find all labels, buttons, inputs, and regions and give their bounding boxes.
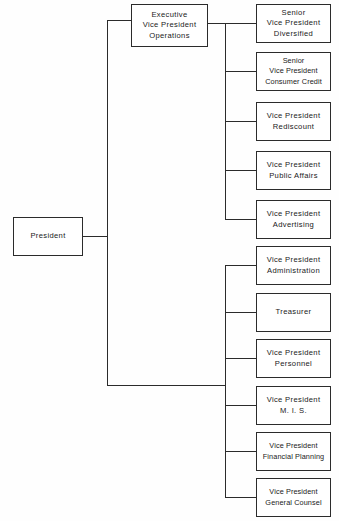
node-svp-diversified-line-3: Diversified xyxy=(274,29,313,39)
node-vp-mis-line-1: Vice President xyxy=(267,395,321,405)
node-vp-administration[interactable]: Vice President Administration xyxy=(256,246,331,285)
node-vp-personnel-line-2: Personnel xyxy=(275,359,312,369)
node-evp-operations-line-1: Executive xyxy=(151,10,187,20)
connector-trunk-to-executive xyxy=(107,20,132,21)
connector-staff-bus xyxy=(225,265,226,498)
connector-executive-stub xyxy=(207,23,226,24)
node-vp-administration-line-2: Administration xyxy=(267,266,320,276)
node-vp-public-affairs-line-1: Vice President xyxy=(267,160,321,170)
node-svp-diversified-line-1: Senior xyxy=(281,8,305,18)
node-vp-public-affairs[interactable]: Vice President Public Affairs xyxy=(256,151,331,190)
node-vp-advertising[interactable]: Vice President Advertising xyxy=(256,200,331,239)
connector-branch-vp-administration xyxy=(225,265,257,266)
node-svp-consumer-credit-line-2: Vice President xyxy=(269,66,317,76)
node-vp-advertising-line-2: Advertising xyxy=(273,220,314,230)
node-vp-public-affairs-line-2: Public Affairs xyxy=(269,171,318,181)
node-vp-mis-line-2: M. I. S. xyxy=(280,406,307,416)
connector-president-stub xyxy=(82,236,108,237)
node-svp-diversified[interactable]: Senior Vice President Diversified xyxy=(256,4,331,43)
node-vp-administration-line-1: Vice President xyxy=(267,255,321,265)
connector-branch-vp-general-counsel xyxy=(225,497,257,498)
node-vp-financial-planning-line-2: Financial Planning xyxy=(263,452,324,462)
node-treasurer-line-1: Treasurer xyxy=(276,307,312,317)
connector-branch-vp-advertising xyxy=(225,219,257,220)
connector-branch-vp-mis xyxy=(225,405,257,406)
connector-branch-vp-financial-planning xyxy=(225,451,257,452)
node-vp-advertising-line-1: Vice President xyxy=(267,209,321,219)
node-president[interactable]: President xyxy=(13,217,83,256)
node-treasurer[interactable]: Treasurer xyxy=(256,293,331,332)
node-evp-operations-line-3: Operations xyxy=(149,31,190,41)
connector-branch-vp-public-affairs xyxy=(225,170,257,171)
node-vp-rediscount[interactable]: Vice President Rediscount xyxy=(256,102,331,141)
org-chart-canvas: President Executive Vice President Opera… xyxy=(0,0,339,521)
connector-branch-svp-consumer-credit xyxy=(225,71,257,72)
node-vp-general-counsel-line-2: General Counsel xyxy=(265,498,321,508)
node-vp-financial-planning-line-1: Vice President xyxy=(269,441,317,451)
node-vp-mis[interactable]: Vice President M. I. S. xyxy=(256,386,331,425)
connector-branch-svp-diversified xyxy=(225,23,257,24)
node-svp-consumer-credit[interactable]: Senior Vice President Consumer Credit xyxy=(256,52,331,91)
node-evp-operations-line-2: Vice President xyxy=(143,20,197,30)
node-vp-general-counsel-line-1: Vice President xyxy=(269,487,317,497)
connector-branch-treasurer xyxy=(225,312,257,313)
connector-branch-vp-personnel xyxy=(225,358,257,359)
connector-main-trunk xyxy=(107,20,108,386)
node-vp-rediscount-line-1: Vice President xyxy=(267,111,321,121)
node-vp-financial-planning[interactable]: Vice President Financial Planning xyxy=(256,432,331,471)
node-svp-diversified-line-2: Vice President xyxy=(267,18,321,28)
node-vp-rediscount-line-2: Rediscount xyxy=(273,122,315,132)
node-vp-general-counsel[interactable]: Vice President General Counsel xyxy=(256,478,331,517)
node-evp-operations[interactable]: Executive Vice President Operations xyxy=(131,4,208,47)
node-vp-personnel[interactable]: Vice President Personnel xyxy=(256,339,331,378)
node-president-line-1: President xyxy=(30,231,65,241)
connector-trunk-to-staff-bus xyxy=(107,385,226,386)
connector-branch-vp-rediscount xyxy=(225,121,257,122)
node-vp-personnel-line-1: Vice President xyxy=(267,348,321,358)
node-svp-consumer-credit-line-3: Consumer Credit xyxy=(265,77,322,87)
node-svp-consumer-credit-line-1: Senior xyxy=(283,56,305,66)
